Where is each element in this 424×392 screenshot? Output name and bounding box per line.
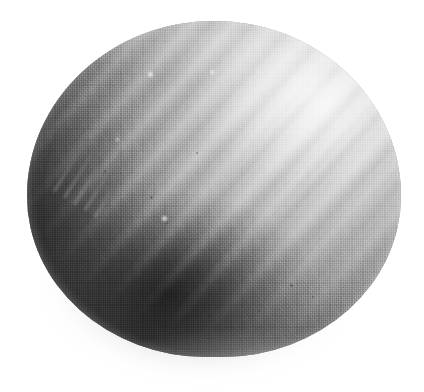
dome-body (27, 21, 401, 357)
film-grain (27, 21, 401, 357)
photograph-canvas (0, 0, 424, 392)
dome-object (27, 21, 401, 357)
